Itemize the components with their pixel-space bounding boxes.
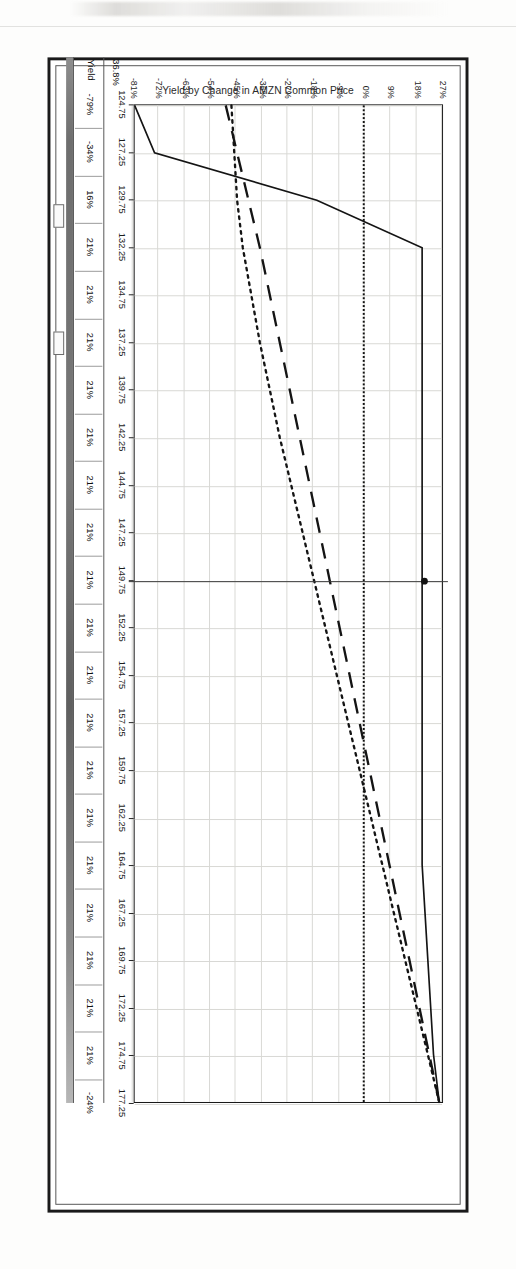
yield-cell-separator bbox=[75, 508, 102, 509]
y-axis-tick-label: 18% bbox=[412, 80, 422, 98]
yield-cell-separator bbox=[75, 936, 102, 937]
x-axis-tick-label: 149.75 bbox=[117, 565, 128, 593]
yield-cell: -24% bbox=[85, 1092, 96, 1114]
x-axis-tick bbox=[129, 437, 134, 438]
yield-cell: 21% bbox=[85, 998, 96, 1017]
x-axis-tick-label: 159.75 bbox=[117, 755, 128, 783]
yield-cell-separator bbox=[75, 556, 102, 557]
x-axis-tick bbox=[129, 294, 134, 295]
scan-rule-top bbox=[0, 26, 516, 27]
x-axis-tick bbox=[129, 912, 134, 913]
x-axis-tick bbox=[129, 484, 134, 485]
yield-cell-separator bbox=[75, 888, 102, 889]
yield-cell-separator bbox=[75, 698, 102, 699]
yield-cell-separator bbox=[75, 175, 102, 176]
yield-cell-separator bbox=[75, 413, 102, 414]
y-axis-tick-label: -27% bbox=[283, 77, 293, 98]
yield-cell-separator bbox=[75, 603, 102, 604]
x-axis-tick-label: 139.75 bbox=[117, 375, 128, 403]
y-axis-tick-label: 27% bbox=[438, 80, 448, 98]
yield-cell-separator bbox=[75, 461, 102, 462]
legend-chip-2[interactable] bbox=[53, 331, 64, 354]
yield-cell-separator bbox=[75, 128, 102, 129]
x-axis-tick bbox=[129, 770, 134, 771]
yield-strip-rule-top bbox=[103, 57, 104, 1103]
yield-cell: 21% bbox=[85, 618, 96, 637]
yield-cell: 21% bbox=[85, 285, 96, 304]
x-axis-tick bbox=[129, 199, 134, 200]
x-axis-tick-label: 127.25 bbox=[117, 137, 128, 165]
x-axis-tick bbox=[129, 532, 134, 533]
x-axis-tick bbox=[129, 151, 134, 152]
yield-cell-separator bbox=[75, 746, 102, 747]
yield-cell-separator bbox=[75, 318, 102, 319]
y-axis-tick-label: 0% bbox=[361, 85, 371, 98]
yield-left-value: 36.8% bbox=[111, 59, 122, 85]
y-axis-tick-label: 9% bbox=[387, 85, 397, 98]
yield-cell: 21% bbox=[85, 808, 96, 827]
x-axis-tick-label: 169.75 bbox=[117, 946, 128, 974]
x-axis-tick bbox=[129, 722, 134, 723]
x-axis-tick bbox=[129, 389, 134, 390]
y-axis-labels: 27%18%9%0%-9%-18%-27%-36%-45%-54%-63%-72… bbox=[134, 57, 443, 102]
series-line-today bbox=[226, 105, 439, 1102]
x-axis-tick bbox=[129, 817, 134, 818]
y-axis-tick-label: -36% bbox=[258, 77, 268, 98]
x-axis-tick bbox=[129, 675, 134, 676]
scan-shadow-band bbox=[66, 57, 73, 1103]
x-axis-tick bbox=[129, 342, 134, 343]
yield-cell-separator bbox=[75, 984, 102, 985]
series-curves bbox=[135, 105, 442, 1102]
yield-cell-separator bbox=[75, 793, 102, 794]
series-line-expiration bbox=[135, 105, 440, 1102]
yield-strip-label: Yield bbox=[86, 59, 97, 80]
yield-cell: 21% bbox=[85, 760, 96, 779]
x-axis-tick-label: 129.75 bbox=[117, 185, 128, 213]
x-axis-tick bbox=[129, 247, 134, 248]
yield-cell: 21% bbox=[85, 665, 96, 684]
gridline-vertical bbox=[135, 1103, 442, 1104]
yield-cell: 21% bbox=[85, 570, 96, 589]
yield-strip: 36.8% Yield -79%-34%16%21%21%21%21%21%21… bbox=[73, 57, 104, 1103]
yield-cell: -34% bbox=[85, 141, 96, 163]
scan-artifact-top bbox=[70, 2, 450, 16]
y-axis-tick-label: -18% bbox=[309, 77, 319, 98]
y-axis-tick-label: -45% bbox=[232, 77, 242, 98]
x-axis-tick bbox=[129, 1055, 134, 1056]
y-axis-tick-label: -63% bbox=[180, 77, 190, 98]
zero-reference-line bbox=[363, 105, 365, 1102]
x-axis-tick-label: 157.25 bbox=[117, 708, 128, 736]
legend-chip-1[interactable] bbox=[53, 204, 64, 227]
rotated-figure: Yield by Change in AMZN Common Price 27%… bbox=[48, 57, 469, 1212]
yield-cell: 21% bbox=[85, 475, 96, 494]
yield-cell-separator bbox=[75, 365, 102, 366]
crosshair-marker bbox=[421, 577, 428, 584]
x-axis-tick bbox=[129, 627, 134, 628]
yield-cell: 21% bbox=[85, 523, 96, 542]
yield-cell: 21% bbox=[85, 332, 96, 351]
yield-cell: 21% bbox=[85, 903, 96, 922]
y-axis-tick-label: -54% bbox=[206, 77, 216, 98]
yield-cell: 21% bbox=[85, 855, 96, 874]
x-axis-tick-label: 164.75 bbox=[117, 850, 128, 878]
yield-cell-separator bbox=[75, 1031, 102, 1032]
yield-cell: 21% bbox=[85, 237, 96, 256]
yield-cell-separator bbox=[75, 223, 102, 224]
x-axis-tick bbox=[129, 1102, 134, 1103]
x-axis-tick-label: 154.75 bbox=[117, 660, 128, 688]
price-crosshair[interactable] bbox=[129, 580, 448, 581]
x-axis-tick-label: 144.75 bbox=[117, 470, 128, 498]
yield-cell: 16% bbox=[85, 190, 96, 209]
x-axis-tick bbox=[129, 865, 134, 866]
yield-cell-separator bbox=[75, 1079, 102, 1080]
yield-cell-separator bbox=[75, 270, 102, 271]
yield-cell: 21% bbox=[85, 427, 96, 446]
x-axis-tick-label: 137.25 bbox=[117, 327, 128, 355]
x-axis-tick bbox=[129, 104, 134, 105]
y-axis-tick-label: -72% bbox=[155, 77, 165, 98]
x-axis-tick bbox=[129, 579, 134, 580]
x-axis-tick-label: 167.25 bbox=[117, 898, 128, 926]
x-axis-tick-label: 132.25 bbox=[117, 232, 128, 260]
x-axis-tick-label: 124.75 bbox=[117, 90, 128, 118]
plot-area bbox=[134, 104, 443, 1103]
